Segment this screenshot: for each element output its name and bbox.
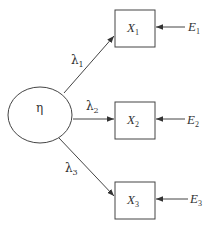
e2-label: E2 <box>186 112 199 129</box>
latent-eta: η <box>8 87 72 143</box>
e1-label: E1 <box>187 19 200 36</box>
x1-label: X1 <box>126 20 139 37</box>
lambda1-label: λ1 <box>71 53 84 69</box>
indicator-x2: X2 <box>115 102 155 139</box>
x2-label: X2 <box>126 112 139 129</box>
indicator-x3: X3 <box>115 182 155 219</box>
lambda2-label: λ2 <box>86 99 99 115</box>
e3-label: E3 <box>189 191 202 208</box>
latent-eta-label: η <box>36 101 43 115</box>
factor-model-diagram: η X1 X2 X3 λ1 λ2 λ3 E1 E2 E3 <box>0 0 212 229</box>
x3-label: X3 <box>126 192 139 209</box>
indicator-x1: X1 <box>115 10 155 47</box>
lambda3-label: λ3 <box>65 161 78 177</box>
